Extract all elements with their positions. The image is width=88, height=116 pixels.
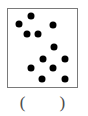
dot bbox=[62, 56, 69, 63]
dot bbox=[35, 31, 42, 38]
dot bbox=[28, 65, 35, 72]
dot bbox=[62, 76, 69, 83]
dot bbox=[50, 65, 57, 72]
dot bbox=[51, 44, 58, 51]
dot bbox=[50, 22, 57, 29]
answer-blank[interactable] bbox=[26, 95, 60, 109]
dot bbox=[16, 21, 23, 28]
answer-paren-close: ) bbox=[60, 94, 66, 111]
dot bbox=[24, 31, 31, 38]
counting-worksheet-item: ( ) bbox=[0, 0, 88, 116]
dot bbox=[39, 76, 46, 83]
dot-box bbox=[7, 8, 78, 88]
dot bbox=[28, 13, 35, 20]
answer-field[interactable]: ( ) bbox=[7, 90, 78, 114]
dot bbox=[40, 56, 47, 63]
